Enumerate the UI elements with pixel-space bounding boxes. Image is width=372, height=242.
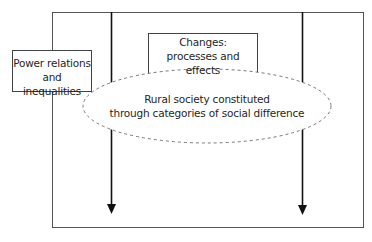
power-relations-line2: and inequalities [12, 70, 92, 98]
changes-line2: processes and effects [148, 49, 258, 77]
rural-society-label: Rural society constituted through catego… [100, 92, 314, 120]
rural-society-line2: through categories of social difference [100, 106, 314, 120]
power-relations-line1: Power relations [12, 56, 92, 70]
changes-label: Changes: processes and effects [148, 35, 258, 77]
power-relations-label: Power relations and inequalities [12, 56, 92, 98]
changes-line1: Changes: [148, 35, 258, 49]
rural-society-line1: Rural society constituted [100, 92, 314, 106]
